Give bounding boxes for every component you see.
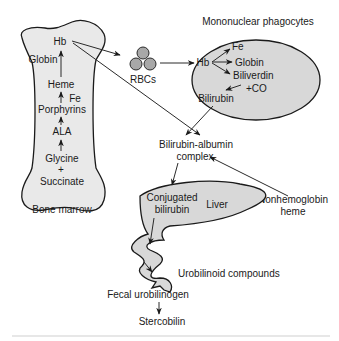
bm-globin: Globin xyxy=(29,54,58,65)
bm-plus: + xyxy=(58,164,64,175)
rbc-cell xyxy=(137,47,149,59)
mp-co: +CO xyxy=(246,83,267,94)
bone-marrow-caption: Bone marrow xyxy=(32,204,92,215)
urobilinoid-label: Urobilinoid compounds xyxy=(178,268,280,279)
bilirubin-to-complex-arrow xyxy=(186,106,213,135)
mp-globin: Globin xyxy=(235,57,264,68)
bm-porphyrins: Porphyrins xyxy=(38,104,86,115)
conjugated-line2: bilirubin xyxy=(155,204,189,215)
complex-line2: complex xyxy=(176,151,213,162)
bm-hb: Hb xyxy=(54,36,67,47)
mp-bilirubin: Bilirubin xyxy=(198,93,234,104)
nonheme-line2: heme xyxy=(280,206,305,217)
stercobilin-label: Stercobilin xyxy=(139,316,186,327)
rbc-cell xyxy=(130,58,142,70)
fecal-urobilinogen-label: Fecal urobilinogen xyxy=(107,289,189,300)
mp-biliverdin: Biliverdin xyxy=(233,70,274,81)
mp-fe: Fe xyxy=(232,41,244,52)
bm-glycine: Glycine xyxy=(45,153,79,164)
bm-ala: ALA xyxy=(53,126,72,137)
complex-line1: Bilirubin-albumin xyxy=(159,139,233,150)
rbcs-label: RBCs xyxy=(130,74,156,85)
phagocytes-caption: Mononuclear phagocytes xyxy=(202,16,314,27)
bm-heme: Heme xyxy=(48,79,75,90)
nonheme-line1: Nonhemoglobin xyxy=(258,194,328,205)
conjugated-line1: Conjugated xyxy=(146,192,197,203)
bm-succinate: Succinate xyxy=(40,176,84,187)
mp-hb: Hb xyxy=(197,57,210,68)
rbc-cell xyxy=(144,58,156,70)
liver-label: Liver xyxy=(206,199,228,210)
heme-metabolism-diagram: Hb Globin Heme Fe Porphyrins ALA Glycine… xyxy=(0,0,339,341)
bm-fe: Fe xyxy=(69,93,81,104)
complex-to-liver-arrow xyxy=(172,163,178,185)
